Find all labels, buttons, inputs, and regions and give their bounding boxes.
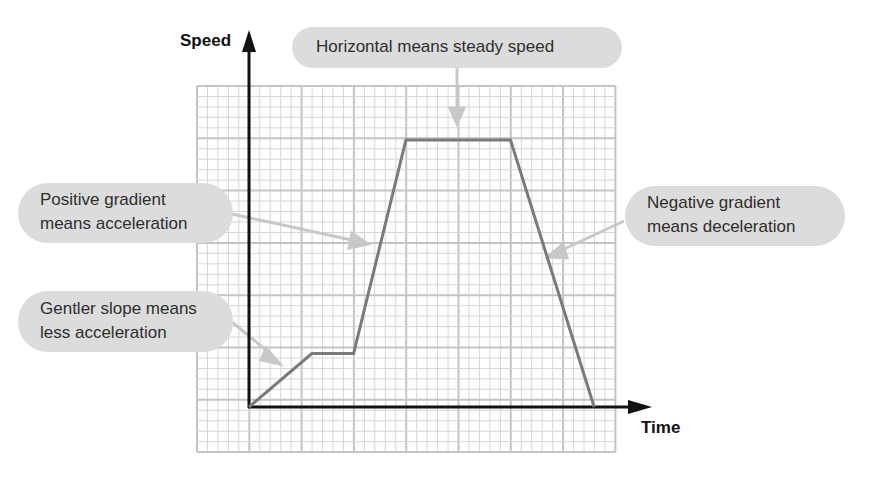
- annotation-negative-gradient: Negative gradient means deceleration: [625, 186, 845, 246]
- y-axis-arrowhead-icon: [242, 30, 256, 52]
- annotation-text: Horizontal means steady speed: [316, 35, 622, 59]
- y-axis-label: Speed: [180, 31, 231, 51]
- arrow-negative-icon: [548, 221, 624, 258]
- annotation-text: Positive gradient: [40, 188, 233, 212]
- annotation-text: means acceleration: [40, 212, 233, 236]
- x-axis-label: Time: [641, 418, 680, 438]
- speed-time-diagram: Speed Time Horizontal means steady speed…: [0, 0, 873, 483]
- annotation-text: Gentler slope means: [40, 297, 233, 321]
- annotation-positive-gradient: Positive gradient means acceleration: [18, 183, 233, 243]
- annotation-text: less acceleration: [40, 321, 233, 345]
- x-axis-arrowhead-icon: [628, 400, 652, 414]
- annotation-gentler-slope: Gentler slope means less acceleration: [18, 291, 233, 352]
- annotation-text: Negative gradient: [647, 191, 845, 215]
- annotation-horizontal: Horizontal means steady speed: [292, 27, 622, 68]
- annotation-text: means deceleration: [647, 215, 845, 239]
